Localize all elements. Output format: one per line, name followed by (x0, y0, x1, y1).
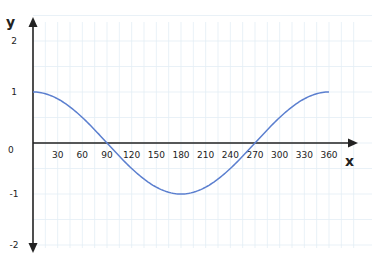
x-tick-label: 210 (197, 150, 214, 160)
y-tick-labels: 21-1-2 (10, 36, 19, 250)
x-tick-label: 270 (246, 150, 263, 160)
y-axis-up-arrow-icon (29, 17, 38, 27)
y-tick-label: 2 (11, 36, 17, 46)
x-tick-label: 240 (222, 150, 239, 160)
x-tick-label: 150 (148, 150, 165, 160)
y-axis-label: y (6, 14, 15, 30)
x-tick-label: 60 (77, 150, 89, 160)
y-tick-label: -2 (10, 240, 19, 250)
x-axis-arrow-icon (348, 139, 358, 148)
x-tick-label: 90 (101, 150, 113, 160)
x-tick-label: 30 (52, 150, 64, 160)
y-tick-label: -1 (10, 189, 19, 199)
y-axis-down-arrow-icon (29, 243, 38, 253)
x-tick-label: 180 (172, 150, 189, 160)
x-tick-label: 360 (320, 150, 337, 160)
grid-lines (33, 16, 372, 249)
x-tick-label: 330 (296, 150, 313, 160)
x-tick-label: 120 (123, 150, 140, 160)
y-tick-label: 1 (11, 87, 17, 97)
origin-label: 0 (8, 145, 14, 155)
x-axis-label: x (345, 153, 354, 169)
x-tick-label: 300 (271, 150, 288, 160)
cosine-chart: 306090120150180210240270300330360 21-1-2… (0, 0, 378, 274)
